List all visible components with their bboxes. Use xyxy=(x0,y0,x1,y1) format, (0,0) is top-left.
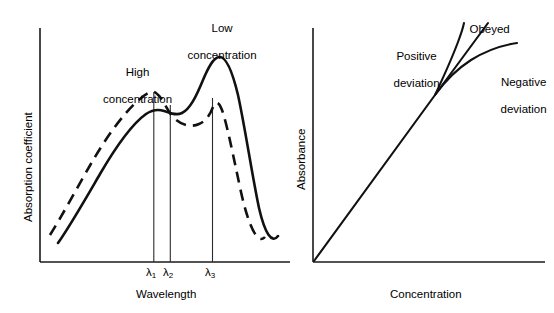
negative-deviation-line1: Negative xyxy=(501,76,546,88)
lambda-2-tick-label: λ2 xyxy=(163,266,173,278)
linear-trunk-segment xyxy=(314,95,435,261)
positive-deviation-line1: Positive xyxy=(396,50,436,62)
beer-law-calibration-panel: Obeyed Positive deviation Negative devia… xyxy=(295,0,554,313)
high-concentration-label: High concentration xyxy=(78,52,178,120)
positive-deviation-label: Positive deviation xyxy=(369,36,445,104)
negative-deviation-label: Negative deviation xyxy=(475,62,553,130)
high-concentration-line2: concentration xyxy=(103,93,172,105)
obeyed-label: Obeyed xyxy=(450,9,510,50)
absorption-coefficient-axis-title: Absorption coefficient xyxy=(22,112,34,222)
positive-deviation-line2: deviation xyxy=(394,77,440,89)
lambda-3-symbol: λ xyxy=(205,266,211,278)
lambda-1-tick-label: λ1 xyxy=(146,266,156,278)
lambda-1-symbol: λ xyxy=(146,266,152,278)
low-concentration-line2: concentration xyxy=(188,49,257,61)
lambda-3-subscript: 3 xyxy=(211,271,215,280)
lambda-2-symbol: λ xyxy=(163,266,169,278)
negative-deviation-line2: deviation xyxy=(501,103,547,115)
low-concentration-line1: Low xyxy=(212,22,233,34)
lambda-2-subscript: 2 xyxy=(169,271,173,280)
figure-root: Low concentration High concentration λ1 … xyxy=(0,0,554,313)
high-concentration-line1: High xyxy=(126,66,150,78)
wavelength-axis-title: Wavelength xyxy=(136,288,196,300)
lambda-1-subscript: 1 xyxy=(152,271,156,280)
obeyed-line1: Obeyed xyxy=(469,23,509,35)
absorbance-axis-title: Absorbance xyxy=(295,129,307,190)
absorption-spectrum-panel: Low concentration High concentration λ1 … xyxy=(0,0,295,313)
lambda-3-tick-label: λ3 xyxy=(205,266,215,278)
concentration-axis-title: Concentration xyxy=(390,288,462,300)
